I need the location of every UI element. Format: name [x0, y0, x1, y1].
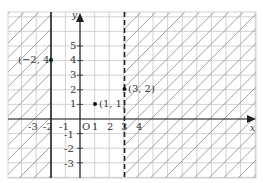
point-1-1: [93, 102, 97, 106]
x-tick-label: 2: [107, 121, 113, 132]
y-tick-label: 5: [70, 40, 76, 51]
point-label: (1, 1): [99, 98, 126, 109]
x-tick-label: 1: [92, 121, 98, 132]
coordinate-plane: x y O -3 -2 -1 1 2 3 4 5 4 3 2 1 -1 -2 -…: [0, 0, 263, 183]
x-axis-arrow-icon: [247, 115, 256, 123]
point-label: (−2, 4): [18, 54, 53, 65]
point-3-2: [123, 87, 127, 91]
y-tick-label: 1: [70, 98, 76, 109]
x-tick-label: -3: [28, 121, 38, 132]
y-axis-arrow-icon: [76, 13, 84, 22]
y-tick-label: -2: [64, 143, 74, 154]
y-axis-label: y: [71, 10, 78, 20]
y-tick-label: 3: [70, 69, 76, 80]
y-tick-label: -1: [64, 129, 74, 140]
y-tick-label: 4: [70, 54, 76, 65]
x-tick-label: 4: [136, 121, 142, 132]
x-tick-label: 3: [121, 121, 127, 132]
x-tick-label: -2: [43, 121, 53, 132]
graph-svg: x y O -3 -2 -1 1 2 3 4 5 4 3 2 1 -1 -2 -…: [0, 0, 263, 183]
origin-label: O: [82, 121, 90, 132]
x-axis-label: x: [250, 123, 255, 133]
point-label: (3, 2): [128, 83, 155, 94]
shaded-region-right: [0, 12, 263, 178]
y-tick-label: -3: [64, 158, 74, 169]
y-tick-label: 2: [70, 84, 76, 95]
